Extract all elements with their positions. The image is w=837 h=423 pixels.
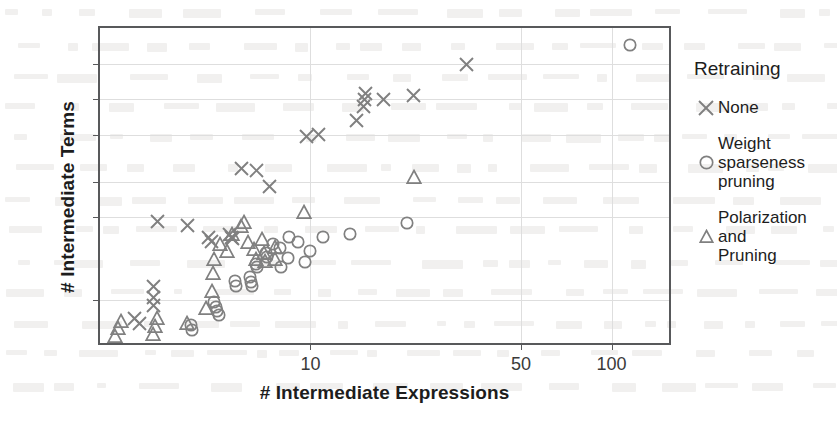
triangle-marker xyxy=(212,236,228,252)
triangle-marker xyxy=(257,253,273,269)
x-tick-label: 50 xyxy=(486,354,556,375)
circle-marker xyxy=(343,227,357,241)
gridline-horizontal xyxy=(100,300,669,301)
x-marker xyxy=(299,129,314,144)
x-tick-label: 10 xyxy=(275,354,345,375)
circle-marker xyxy=(229,279,243,293)
triangle-marker xyxy=(107,328,123,344)
x-marker xyxy=(222,227,237,242)
circle-marker xyxy=(250,260,264,274)
y-tick xyxy=(93,135,100,136)
gridline-vertical xyxy=(612,28,613,343)
triangle-marker xyxy=(233,218,249,234)
triangle-marker xyxy=(198,300,214,316)
circle-marker xyxy=(244,275,258,289)
x-marker xyxy=(406,88,421,103)
circle-marker xyxy=(243,270,257,284)
legend-item: Polarization and Pruning xyxy=(694,208,834,265)
circle-marker xyxy=(266,237,280,251)
x-marker xyxy=(127,311,142,326)
triangle-marker xyxy=(246,241,262,257)
gridline-horizontal xyxy=(100,135,669,136)
circle-marker xyxy=(273,241,287,255)
triangle-marker xyxy=(113,313,129,329)
y-axis-title: # Intermediate Terms xyxy=(57,37,79,357)
x-marker xyxy=(249,163,264,178)
x-marker xyxy=(356,99,371,114)
gridline-horizontal xyxy=(100,64,669,65)
gridline-vertical xyxy=(521,28,522,343)
plot-area: 10501002505001000 1050100 xyxy=(98,26,671,345)
legend: Retraining NoneWeight sparseness pruning… xyxy=(694,58,834,282)
circle-marker xyxy=(249,257,263,271)
x-marker xyxy=(204,234,219,249)
x-tick xyxy=(310,343,311,350)
triangle-marker xyxy=(110,320,126,336)
circle-marker xyxy=(694,155,718,170)
triangle-marker xyxy=(248,251,264,267)
triangle-marker xyxy=(179,315,195,331)
gridline-horizontal xyxy=(100,99,669,100)
legend-item: Weight sparseness pruning xyxy=(694,134,834,191)
gridline-horizontal xyxy=(100,217,669,218)
triangle-marker xyxy=(205,265,221,281)
triangle-marker xyxy=(254,231,270,247)
circle-marker xyxy=(291,235,305,249)
circle-marker xyxy=(245,279,259,293)
circle-marker xyxy=(260,250,274,264)
legend-item: None xyxy=(694,98,834,117)
circle-marker xyxy=(212,308,226,322)
scatter-chart: # Intermediate Terms 10501002505001000 1… xyxy=(0,0,837,423)
triangle-marker xyxy=(694,229,718,244)
y-tick xyxy=(93,217,100,218)
gridline-vertical xyxy=(310,28,311,343)
triangle-marker xyxy=(204,283,220,299)
x-marker xyxy=(224,230,239,245)
x-marker xyxy=(349,113,364,128)
triangle-marker xyxy=(267,251,283,267)
x-marker xyxy=(234,161,249,176)
legend-item-label: None xyxy=(718,98,759,117)
y-tick xyxy=(93,182,100,183)
x-marker xyxy=(459,57,474,72)
x-marker xyxy=(694,98,718,116)
legend-item-label: Polarization and Pruning xyxy=(718,208,807,265)
circle-marker xyxy=(209,300,223,314)
x-marker xyxy=(132,316,147,331)
x-marker xyxy=(201,230,216,245)
y-tick xyxy=(93,99,100,100)
y-tick xyxy=(93,64,100,65)
x-marker xyxy=(146,279,161,294)
y-tick xyxy=(93,300,100,301)
circle-marker xyxy=(184,318,198,332)
legend-items: NoneWeight sparseness pruningPolarizatio… xyxy=(694,98,834,265)
x-marker xyxy=(180,218,195,233)
triangle-marker xyxy=(147,318,163,334)
circle-marker xyxy=(623,38,637,52)
triangle-marker xyxy=(240,234,256,250)
triangle-marker xyxy=(206,251,222,267)
gridline-horizontal xyxy=(100,182,669,183)
circle-marker xyxy=(185,323,199,337)
triangle-marker xyxy=(219,243,235,259)
legend-title: Retraining xyxy=(694,58,834,80)
circle-marker xyxy=(210,304,224,318)
x-marker xyxy=(225,231,240,246)
x-marker xyxy=(146,290,161,305)
legend-item-label: Weight sparseness pruning xyxy=(718,134,805,191)
triangle-marker xyxy=(236,214,252,230)
circle-marker xyxy=(228,274,242,288)
triangle-marker xyxy=(267,239,283,255)
circle-marker xyxy=(281,251,295,265)
circle-marker xyxy=(282,230,296,244)
circle-marker xyxy=(316,230,330,244)
x-tick-label: 100 xyxy=(577,354,647,375)
triangle-marker xyxy=(149,310,165,326)
circle-marker xyxy=(207,295,221,309)
circle-marker xyxy=(274,260,288,274)
triangle-marker xyxy=(224,226,240,242)
x-axis-title: # Intermediate Expressions xyxy=(98,382,671,404)
x-tick xyxy=(612,343,613,350)
triangle-marker xyxy=(145,326,161,342)
circle-marker xyxy=(259,246,273,260)
